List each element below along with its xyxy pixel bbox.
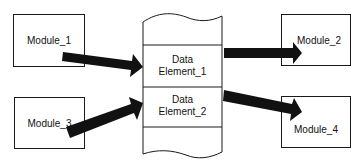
arrow-icon-module1-to-element1 <box>62 52 143 77</box>
arrow-icon-module3-to-element2 <box>66 97 143 138</box>
arrow-icon-element2-to-module4 <box>223 90 302 121</box>
arrows-layer <box>0 0 362 167</box>
arrow-icon-element1-to-module2 <box>224 42 302 64</box>
